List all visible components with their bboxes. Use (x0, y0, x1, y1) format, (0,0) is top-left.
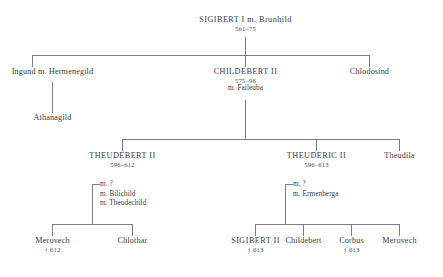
marriage-item: m. ? (293, 180, 338, 190)
node-name: Merovech (366, 236, 433, 246)
node-theudebert-ii: THEUDEBERT II 596–612 (73, 151, 172, 168)
node-death: † 612 (17, 246, 88, 254)
node-name: Athanagild (16, 113, 89, 123)
node-name: Chlodosind (332, 67, 407, 77)
node-death: † 613 (218, 246, 293, 254)
node-athanagild: Athanagild (16, 113, 89, 123)
node-death: † 613 (320, 246, 383, 254)
node-name: CHILDEBERT II (196, 67, 295, 77)
node-merovech-left: Merovech † 612 (17, 236, 88, 253)
node-dates: 575–96 (196, 77, 295, 85)
node-name: THEUDERIC II (267, 151, 366, 161)
node-name: THEUDEBERT II (73, 151, 172, 161)
node-name: Ingund m. Hermenegild (0, 67, 105, 77)
marriage-item: m. Theudechild (100, 199, 146, 209)
node-ingund: Ingund m. Hermenegild (0, 67, 105, 77)
node-childebert-ii: CHILDEBERT II 575–96 m. Faileuba (196, 67, 295, 93)
node-spouse: m. Faileuba (196, 84, 295, 92)
marriages-theudebert-ii: m. ? m. Bilichild m. Theudechild (100, 180, 146, 209)
family-tree-diagram: SIGIBERT I m. Brunhild 561–75 Ingund m. … (0, 0, 443, 277)
node-dates: 561–75 (165, 25, 326, 33)
node-theuderic-ii: THEUDERIC II 596–613 (267, 151, 366, 168)
node-chlothar: Chlothar (98, 236, 167, 246)
node-theudila: Theudila (367, 151, 432, 161)
node-name: Chlothar (98, 236, 167, 246)
node-dates: 596–612 (73, 161, 172, 169)
node-merovech-right: Merovech (366, 236, 433, 246)
node-name: Theudila (367, 151, 432, 161)
node-sigibert-i: SIGIBERT I m. Brunhild 561–75 (165, 15, 326, 32)
node-name: SIGIBERT I m. Brunhild (165, 15, 326, 25)
marriages-theuderic-ii: m. ? m. Ermenberga (293, 180, 338, 199)
marriage-item: m. Bilichild (100, 190, 146, 200)
node-dates: 596–613 (267, 161, 366, 169)
node-name: Merovech (17, 236, 88, 246)
marriage-item: m. Ermenberga (293, 190, 338, 200)
marriage-item: m. ? (100, 180, 146, 190)
node-chlodosind: Chlodosind (332, 67, 407, 77)
